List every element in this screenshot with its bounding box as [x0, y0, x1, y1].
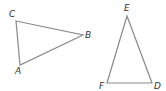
triangle-diagram: C B A E D F	[0, 0, 166, 91]
triangle-abc	[16, 21, 83, 65]
vertex-label-e: E	[124, 3, 130, 13]
triangle-def	[107, 16, 152, 83]
vertex-label-a: A	[14, 66, 21, 76]
vertex-label-d: D	[154, 81, 161, 91]
vertex-label-b: B	[85, 30, 91, 40]
vertex-label-c: C	[9, 9, 16, 19]
vertex-label-f: F	[99, 81, 105, 91]
